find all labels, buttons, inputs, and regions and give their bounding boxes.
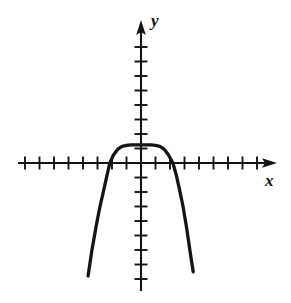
graph-figure: y x (0, 0, 291, 303)
x-axis-label: x (265, 172, 274, 189)
y-axis-label: y (151, 12, 159, 29)
coordinate-plane (0, 0, 291, 303)
